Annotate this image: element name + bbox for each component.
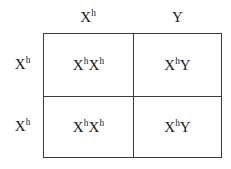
genotype-label: XhXh — [73, 120, 104, 135]
allele-superscript: h — [100, 56, 105, 66]
allele-label: Xh — [15, 57, 31, 72]
allele-label: Xh — [15, 119, 31, 134]
allele-superscript: h — [100, 118, 105, 128]
allele-label: Y — [172, 10, 183, 25]
column-header-1: Xh — [43, 2, 133, 33]
allele-base: X — [15, 56, 26, 72]
allele-base: X — [73, 57, 84, 73]
row-header-column: Xh Xh — [2, 33, 43, 158]
allele-base: X — [164, 119, 175, 135]
genotype-label: XhY — [164, 58, 191, 73]
column-header-2: Y — [133, 2, 222, 33]
cell-row2-col1: XhXh — [44, 97, 134, 157]
allele-base: X — [164, 57, 175, 73]
cell-row2-col2: XhY — [134, 97, 221, 157]
allele-base: X — [15, 118, 26, 134]
allele-label: Xh — [80, 10, 96, 25]
allele-base: Y — [180, 57, 191, 73]
genotype-label: XhY — [164, 120, 191, 135]
cell-row1-col2: XhY — [134, 34, 221, 97]
punnett-square-diagram: Xh Y Xh Xh XhXh Xh — [0, 0, 231, 169]
allele-base: X — [89, 119, 100, 135]
allele-superscript: h — [26, 117, 31, 127]
allele-base: X — [73, 119, 84, 135]
row-header-2: Xh — [2, 96, 43, 159]
cell-row1-col1: XhXh — [44, 34, 134, 97]
row-header-1: Xh — [2, 33, 43, 96]
allele-superscript: h — [91, 8, 96, 18]
column-header-row: Xh Y — [43, 2, 222, 33]
allele-base: Y — [180, 119, 191, 135]
allele-base: X — [80, 9, 91, 25]
allele-superscript: h — [26, 55, 31, 65]
punnett-grid: XhXh XhY XhXh XhY — [43, 33, 222, 158]
allele-base: X — [89, 57, 100, 73]
genotype-label: XhXh — [73, 58, 104, 73]
allele-base: Y — [172, 9, 183, 25]
